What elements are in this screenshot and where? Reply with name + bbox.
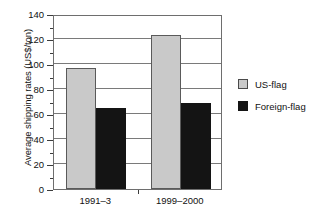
- legend-item-foreign-flag: Foreign-flag: [238, 95, 306, 117]
- y-tick-label: 20: [33, 160, 44, 170]
- legend-label: Foreign-flag: [255, 101, 306, 112]
- y-tick-major: [47, 190, 53, 191]
- us-flag-swatch: [238, 79, 248, 89]
- y-tick-label: 100: [28, 60, 44, 70]
- gridline: [54, 38, 221, 39]
- legend-item-us-flag: US-flag: [238, 73, 306, 95]
- foreign-flag-swatch: [238, 101, 248, 111]
- x-tick: [138, 190, 139, 194]
- y-axis: 020406080100120140: [0, 0, 53, 215]
- bar-foreign-flag-1: [96, 108, 126, 189]
- bar-chart-figure: Average shipping rates (US$/ton) 0204060…: [0, 0, 327, 215]
- y-tick-label: 40: [33, 135, 44, 145]
- plot-area: [53, 15, 222, 190]
- y-tick-label: 80: [33, 85, 44, 95]
- y-tick-label: 0: [39, 185, 44, 195]
- legend-label: US-flag: [255, 79, 287, 90]
- bar-foreign-flag-2: [181, 103, 211, 189]
- bar-us-flag-1: [66, 68, 96, 189]
- gridline: [54, 63, 221, 64]
- y-tick-label: 60: [33, 110, 44, 120]
- y-tick-label: 120: [28, 35, 44, 45]
- y-tick-label: 140: [28, 10, 44, 20]
- bar-us-flag-2: [151, 35, 181, 189]
- chart-legend: US-flagForeign-flag: [238, 73, 306, 117]
- x-axis-label-2: 1999–2000: [130, 195, 230, 206]
